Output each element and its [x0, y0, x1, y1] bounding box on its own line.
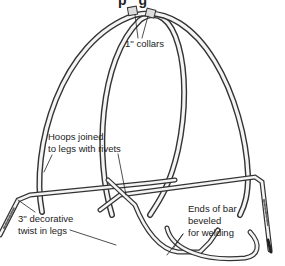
label-collars: 1'' collars [125, 38, 164, 49]
label-ends-3: for welding [188, 227, 234, 238]
label-ends-1: Ends of bar [188, 203, 237, 214]
title-fragment: p g [118, 0, 151, 8]
label-twist-2: twist in legs [18, 225, 67, 236]
label-ends-2: beveled [188, 215, 221, 226]
label-twist-1: 3'' decorative [18, 213, 73, 224]
label-hoops-joined-1: Hoops joined [48, 131, 103, 142]
label-hoops-joined-2: to legs with rivets [48, 143, 121, 154]
